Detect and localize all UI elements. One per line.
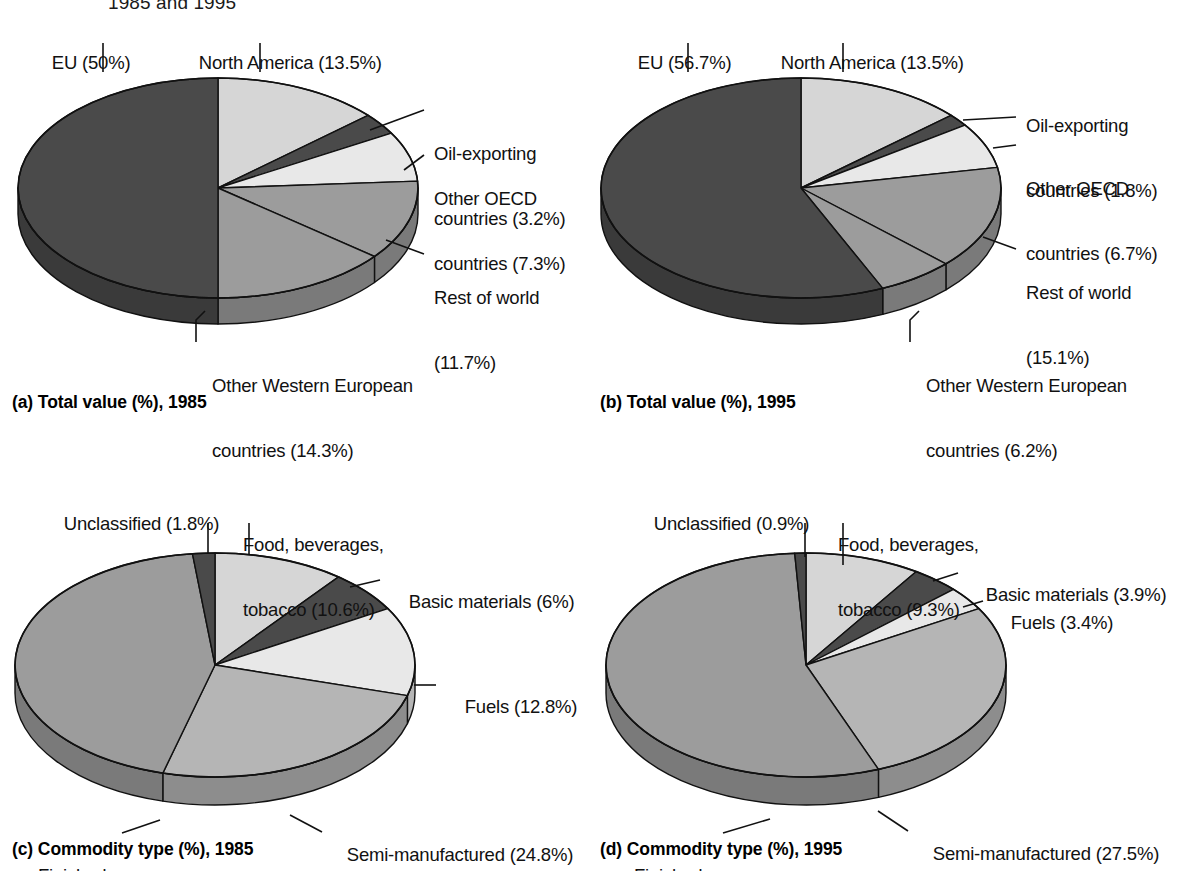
caption-b: (b) Total value (%), 1995 <box>600 392 796 413</box>
label-eu-a: EU (50%) <box>32 30 130 95</box>
label-basic-materials-c: Basic materials (6%) <box>389 569 574 634</box>
caption-a: (a) Total value (%), 1985 <box>12 392 207 413</box>
label-semi-manufactured-d: Semi-manufactured (27.5%) <box>913 821 1159 871</box>
label-food-beverages-tobacco-c: Food, beverages, tobacco (10.6%) <box>243 491 384 663</box>
label-north-america-a: North America (13.5%) <box>179 30 382 95</box>
caption-c: (c) Commodity type (%), 1985 <box>12 839 253 860</box>
panel-c: Unclassified (1.8%) Food, beverages, tob… <box>0 435 588 871</box>
panel-b: EU (56.7%) North America (13.5%) Oil-exp… <box>588 0 1177 435</box>
panel-a: EU (50%) North America (13.5%) Oil-expor… <box>0 0 588 435</box>
label-fuels-c: Fuels (12.8%) <box>445 674 577 739</box>
label-food-beverages-tobacco-d: Food, beverages, tobacco (9.3%) <box>838 491 979 663</box>
label-eu-b: EU (56.7%) <box>618 30 731 95</box>
caption-d: (d) Commodity type (%), 1995 <box>600 839 842 860</box>
label-semi-manufactured-c: Semi-manufactured (24.8%) <box>327 822 573 871</box>
label-unclassified-d: Unclassified (0.9%) <box>634 491 809 556</box>
label-unclassified-c: Unclassified (1.8%) <box>44 491 219 556</box>
label-rest-of-world-a: Rest of world (11.7%) <box>434 244 539 416</box>
panel-d: Unclassified (0.9%) Food, beverages, tob… <box>588 435 1177 871</box>
label-north-america-b: North America (13.5%) <box>761 30 964 95</box>
label-fuels-d: Fuels (3.4%) <box>991 590 1113 655</box>
